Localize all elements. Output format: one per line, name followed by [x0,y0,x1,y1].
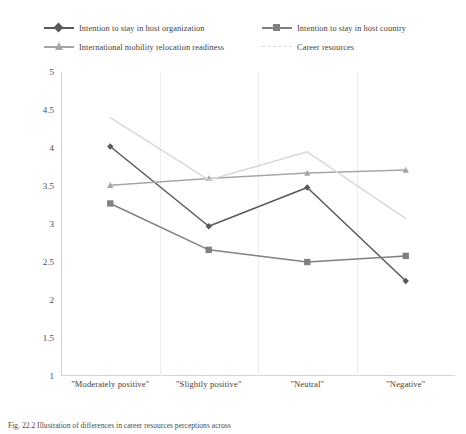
chart-legend: Intention to stay in host organization I… [44,22,456,64]
legend-label-career-resources: Career resources [297,43,354,52]
legend-marker-triangle-icon [55,42,63,50]
legend-label-mobility-relocation-readiness: International mobility relocation readin… [79,43,224,52]
data-point-marker-square [304,259,310,265]
y-axis-tick-label: 4 [50,143,55,153]
y-axis-tick-label: 5 [50,67,55,77]
x-axis-label-3: "Negative" [357,379,456,397]
legend-marker-diamond-icon [54,23,64,33]
y-axis-tick-label: 1 [50,371,55,381]
x-axis-label-2: "Neutral" [258,379,357,397]
x-axis-label-0: "Moderately positive" [61,379,160,397]
series-international-mobility-relocation-readiness [107,167,409,188]
data-point-marker-square [107,200,113,206]
chart-series-svg [61,72,455,376]
legend-swatch-intention-host-organization [44,22,74,34]
figure-caption: Fig. 22.2 Illustration of differences in… [8,421,458,434]
y-axis-tick-label: 4.5 [43,105,54,115]
legend-swatch-mobility-relocation-readiness [44,41,74,53]
series-career-resources [110,118,406,219]
y-axis-tick-label: 2 [50,295,55,305]
legend-line-swatch [262,46,292,47]
legend-item-career-resources[interactable]: Career resources [262,41,354,53]
y-axis-tick-label: 2.5 [43,257,54,267]
y-axis-tick-label: 3 [50,219,55,229]
legend-item-mobility-relocation-readiness[interactable]: International mobility relocation readin… [44,41,224,53]
figure-container: Intention to stay in host organization I… [0,0,466,434]
series-intention-to-stay-in-host-country [107,200,409,265]
series-line [110,146,406,281]
y-axis-tick-label: 3.5 [43,181,54,191]
plot-area: 54.543.532.521.51 [61,72,455,376]
series-intention-to-stay-in-host-organization [107,143,409,284]
x-axis-label-1: "Slightly positive" [160,379,259,397]
x-axis-category-labels: "Moderately positive" "Slightly positive… [61,379,455,397]
legend-label-intention-host-country: Intention to stay in host country [297,24,406,33]
legend-marker-square-icon [273,24,280,31]
series-line [110,118,406,219]
data-point-marker-square [403,253,409,259]
y-axis-tick-label: 1.5 [43,333,54,343]
legend-swatch-intention-host-country [262,22,292,34]
data-point-marker-square [206,247,212,253]
legend-item-intention-host-organization[interactable]: Intention to stay in host organization [44,22,205,34]
legend-item-intention-host-country[interactable]: Intention to stay in host country [262,22,406,34]
legend-swatch-career-resources [262,41,292,53]
legend-label-intention-host-organization: Intention to stay in host organization [79,24,205,33]
series-line [110,203,406,262]
